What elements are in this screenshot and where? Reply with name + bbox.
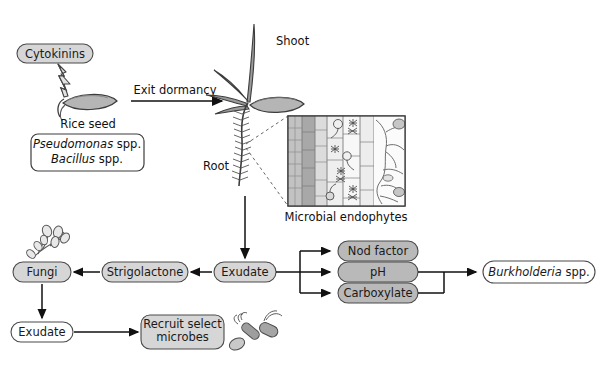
fungus-hyphae-icon [25,224,71,260]
root-with-hairs-icon [232,103,251,186]
exudate-fungi-node: Exudate [11,322,73,342]
exudate-root-node: Exudate [214,262,276,282]
recruit-microbes-label-line2: microbes [156,330,209,344]
burkholderia-node: Burkholderia spp. [483,261,595,283]
microbial-endophytes-label: Microbial endophytes [284,210,407,224]
seed-microbes-node: Pseudomonas spp. Bacillus spp. [31,134,144,171]
bacteria-cluster-icon [227,311,282,353]
fungi-label: Fungi [26,265,57,279]
cytokinins-node: Cytokinins [17,44,93,63]
carboxylate-label: Carboxylate [343,286,412,300]
seed-microbes-line-1: Pseudomonas spp. [33,137,141,151]
ph-label: pH [370,265,386,279]
exudate-fungi-label: Exudate [18,325,65,339]
lightning-bolt-icon [58,64,70,97]
bacillus-genus: Bacillus [51,152,95,166]
pseudomonas-suffix: spp. [113,137,141,151]
strigolactone-node: Strigolactone [102,262,188,282]
burkholderia-genus: Burkholderia [488,265,561,279]
root-cross-section-inset [288,116,405,206]
inset-callout-lines [246,116,288,206]
ph-node: pH [338,262,418,282]
cytokinins-label: Cytokinins [25,47,85,61]
nod-factor-label: Nod factor [348,244,409,258]
recruit-microbes-node: Recruit select microbes [141,315,224,349]
figure-canvas: Cytokinins Rice seed Pseudomonas spp. Ba… [0,0,604,367]
fungi-node: Fungi [13,262,71,282]
pseudomonas-genus: Pseudomonas [33,137,113,151]
recruit-microbes-label-line1: Recruit select [143,317,222,331]
burkholderia-label: Burkholderia spp. [488,265,589,279]
root-label: Root [203,159,230,173]
burkholderia-suffix: spp. [562,265,590,279]
nod-factor-node: Nod factor [338,241,418,261]
seed-microbes-line-2: Bacillus spp. [51,152,123,166]
shoot-label: Shoot [276,34,310,48]
strigolactone-label: Strigolactone [107,265,184,279]
exudate-root-label: Exudate [221,265,268,279]
rice-seed-label: Rice seed [60,117,116,131]
exit-dormancy-label: Exit dormancy [134,83,217,97]
bacillus-suffix: spp. [95,152,123,166]
carboxylate-node: Carboxylate [338,283,418,303]
